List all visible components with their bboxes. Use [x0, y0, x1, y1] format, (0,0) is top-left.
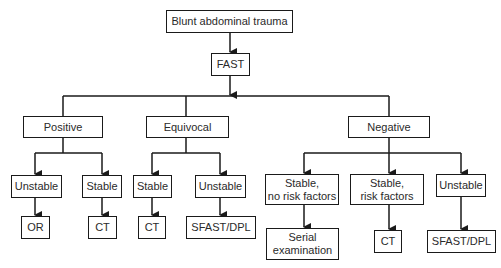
- node-serial-examination: Serial examination: [266, 228, 339, 260]
- node-positive-unstable: Unstable: [11, 175, 62, 198]
- node-equivocal-stable-ct: CT: [138, 216, 166, 239]
- node-equivocal: Equivocal: [146, 116, 229, 138]
- node-negative-stable-risk: Stable, risk factors: [350, 174, 424, 205]
- node-negative-risk-ct: CT: [374, 230, 402, 253]
- node-equivocal-sfast-dpl: SFAST/DPL: [186, 216, 256, 239]
- node-blunt-abdominal-trauma: Blunt abdominal trauma: [166, 10, 293, 33]
- node-fast: FAST: [211, 53, 250, 76]
- node-equivocal-unstable: Unstable: [195, 175, 246, 198]
- node-positive-stable: Stable: [82, 175, 122, 198]
- node-negative-sfast-dpl: SFAST/DPL: [427, 230, 496, 253]
- node-negative: Negative: [348, 116, 430, 138]
- flowchart-canvas: Blunt abdominal trauma FAST Positive Equ…: [0, 0, 501, 268]
- node-equivocal-stable: Stable: [133, 175, 172, 198]
- node-positive-stable-ct: CT: [88, 216, 117, 239]
- node-negative-unstable: Unstable: [436, 174, 486, 197]
- node-action-or: OR: [21, 216, 50, 239]
- node-positive: Positive: [23, 116, 103, 138]
- node-negative-stable-no-risk: Stable, no risk factors: [265, 174, 339, 205]
